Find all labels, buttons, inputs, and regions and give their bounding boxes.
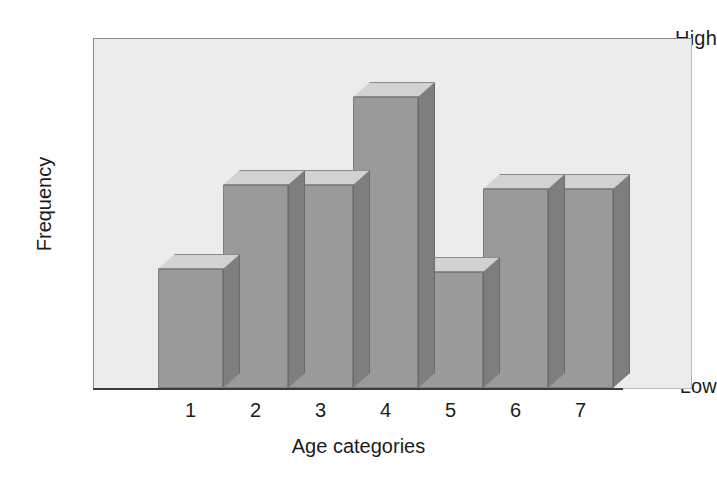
x-axis-baseline <box>93 388 623 390</box>
bar-chart-figure: High Low Frequency 1234567 Age categorie… <box>0 0 717 489</box>
y-axis-title: Frequency <box>34 124 54 284</box>
x-axis-tick-7: 7 <box>538 400 623 420</box>
x-axis-title: Age categories <box>0 436 717 456</box>
x-axis-tick-row: 1234567 <box>0 400 717 426</box>
plot-area <box>93 38 692 389</box>
